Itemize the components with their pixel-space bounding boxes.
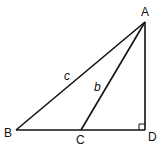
vertex-label-d: D bbox=[148, 130, 157, 144]
segment-ac bbox=[81, 22, 145, 130]
side-label-b: b bbox=[94, 80, 101, 94]
vertex-label-c: C bbox=[76, 133, 85, 147]
segment-ab bbox=[16, 22, 145, 130]
right-angle-marker bbox=[139, 124, 145, 130]
triangle-diagram: A B C D c b bbox=[0, 0, 164, 148]
vertex-label-b: B bbox=[4, 126, 12, 140]
vertex-label-a: A bbox=[141, 5, 149, 19]
side-label-c: c bbox=[64, 69, 70, 83]
